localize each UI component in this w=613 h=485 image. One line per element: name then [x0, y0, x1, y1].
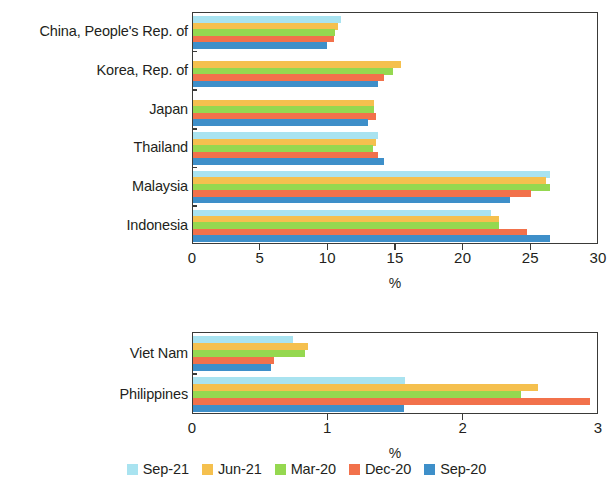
legend-label: Sep-20 — [440, 462, 486, 477]
top-chart-plot-area — [192, 12, 598, 244]
x-axis-tick-label: 30 — [589, 250, 606, 265]
x-axis-tick-label: 10 — [319, 250, 336, 265]
x-axis-tick-label: 15 — [386, 250, 403, 265]
legend-swatch-icon — [127, 464, 138, 475]
bar — [193, 405, 404, 412]
y-axis-tick — [192, 89, 197, 91]
x-axis-tick-label: 3 — [594, 420, 603, 435]
legend-label: Mar-20 — [291, 462, 336, 477]
legend-item: Dec-20 — [349, 462, 411, 477]
bar — [193, 81, 378, 88]
top-chart-x-axis-title: % — [389, 276, 401, 290]
bar — [193, 42, 327, 49]
y-axis-tick — [192, 128, 197, 130]
top-chart-bars — [193, 13, 597, 243]
x-axis-tick-label: 1 — [323, 420, 332, 435]
legend-swatch-icon — [424, 464, 435, 475]
bottom-chart-x-axis-title: % — [389, 446, 401, 460]
category-label: Malaysia — [132, 179, 188, 194]
bottom-chart-bars — [193, 333, 597, 413]
legend-label: Jun-21 — [218, 462, 262, 477]
bar — [193, 364, 271, 371]
bar — [193, 197, 510, 204]
x-axis-tick-label: 5 — [255, 250, 264, 265]
legend-item: Mar-20 — [275, 462, 336, 477]
category-label: Korea, Rep. of — [97, 63, 188, 78]
legend-swatch-icon — [275, 464, 286, 475]
y-axis-tick — [192, 51, 197, 53]
legend-swatch-icon — [202, 464, 213, 475]
legend-label: Dec-20 — [365, 462, 411, 477]
category-label: China, People's Rep. of — [40, 24, 188, 39]
bottom-chart-category-labels: Viet NamPhilippines — [0, 332, 188, 414]
y-axis-tick — [192, 373, 197, 375]
bar — [193, 158, 384, 165]
x-axis-tick-label: 0 — [188, 250, 197, 265]
category-label: Japan — [149, 102, 188, 117]
legend-label: Sep-21 — [143, 462, 189, 477]
y-axis-tick — [192, 167, 197, 169]
category-label: Viet Nam — [130, 346, 188, 361]
chart-figure: China, People's Rep. ofKorea, Rep. ofJap… — [0, 0, 613, 485]
legend-swatch-icon — [349, 464, 360, 475]
legend-item: Jun-21 — [202, 462, 262, 477]
x-axis-tick-label: 0 — [188, 420, 197, 435]
chart-legend: Sep-21Jun-21Mar-20Dec-20Sep-20 — [0, 462, 613, 477]
x-axis-tick-label: 2 — [458, 420, 467, 435]
top-chart-category-labels: China, People's Rep. ofKorea, Rep. ofJap… — [0, 12, 188, 244]
x-axis-tick-label: 20 — [454, 250, 471, 265]
category-label: Indonesia — [126, 218, 188, 233]
x-axis-tick-label: 25 — [522, 250, 539, 265]
bar — [193, 119, 368, 126]
category-label: Philippines — [120, 387, 188, 402]
bottom-chart-plot-area — [192, 332, 598, 414]
legend-item: Sep-21 — [127, 462, 189, 477]
legend-item: Sep-20 — [424, 462, 486, 477]
y-axis-tick — [192, 205, 197, 207]
category-label: Thailand — [134, 140, 188, 155]
bar — [193, 235, 550, 242]
